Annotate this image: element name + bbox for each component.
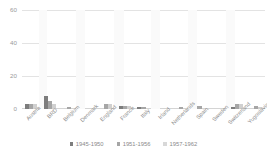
- bar-group: [22, 10, 41, 109]
- x-axis-label-cell: Belgium: [59, 110, 78, 142]
- y-tick-label: 20: [10, 73, 17, 79]
- bar-group: [246, 10, 265, 109]
- y-tick-label: 60: [10, 7, 17, 13]
- x-axis-label-cell: Denmark: [78, 110, 97, 142]
- x-axis-label-cell: France: [115, 110, 134, 142]
- x-axis-label-cell: Netherlands: [172, 110, 191, 142]
- legend-label: 1957-1962: [170, 141, 198, 147]
- x-axis-labels: AustriaBRDBelgiumDenmarkEnglandFranceIta…: [22, 110, 265, 142]
- bar-group: [209, 10, 228, 109]
- bar-group: [172, 10, 191, 109]
- legend-swatch-icon: [163, 142, 167, 146]
- bar-group: [41, 10, 60, 109]
- bar-group: [228, 10, 247, 109]
- legend-label: 1951-1956: [123, 141, 151, 147]
- chart-legend: 1945-1950 1951-1956 1957-1962: [0, 141, 267, 147]
- legend-item[interactable]: 1951-1956: [117, 141, 151, 147]
- legend-swatch-icon: [117, 142, 121, 146]
- y-tick-label: 40: [10, 40, 17, 46]
- bar-group: [78, 10, 97, 109]
- bar-group: [134, 10, 153, 109]
- x-axis-label-cell: Switzerland: [228, 110, 247, 142]
- legend-item[interactable]: 1945-1950: [70, 141, 104, 147]
- bar-group: [190, 10, 209, 109]
- y-tick-label: 0: [14, 106, 17, 112]
- bar-groups: [22, 10, 265, 109]
- bar-group: [115, 10, 134, 109]
- x-axis-label-cell: Spain: [190, 110, 209, 142]
- bar-group: [59, 10, 78, 109]
- plot-area: [22, 10, 265, 109]
- legend-swatch-icon: [70, 142, 74, 146]
- bar-chart: 60 40 20 0 AustriaBRDBelgiumDenmarkEngla…: [0, 0, 267, 155]
- x-axis-label-cell: Irland: [153, 110, 172, 142]
- x-axis-label-cell: Yugoslavia: [246, 110, 265, 142]
- x-axis-label-cell: Sweden: [209, 110, 228, 142]
- legend-label: 1945-1950: [76, 141, 104, 147]
- y-axis-labels: 60 40 20 0: [0, 0, 20, 109]
- bar-group: [97, 10, 116, 109]
- x-tick-label: Italy: [140, 107, 152, 119]
- x-axis-label-cell: Italy: [134, 110, 153, 142]
- x-axis-label-cell: Austria: [22, 110, 41, 142]
- legend-item[interactable]: 1957-1962: [163, 141, 197, 147]
- x-axis-label-cell: England: [97, 110, 116, 142]
- x-axis-label-cell: BRD: [41, 110, 60, 142]
- bar-group: [153, 10, 172, 109]
